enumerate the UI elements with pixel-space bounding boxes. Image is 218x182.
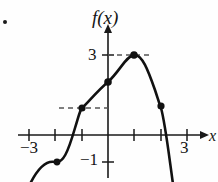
x-axis-label: x — [209, 128, 216, 144]
y-tick-label--1: −1 — [80, 151, 98, 168]
point-2-1 — [157, 102, 164, 109]
point-left-endpoint — [54, 159, 61, 166]
function-curve — [30, 55, 173, 182]
point-0-2 — [104, 78, 112, 86]
y-tick-label-3: 3 — [88, 46, 97, 63]
x-tick-label-3: 3 — [180, 139, 189, 156]
curve-label: f(x) — [92, 8, 118, 27]
x-tick-label--3: −3 — [20, 139, 38, 156]
point-1-3 — [130, 51, 138, 59]
x-axis-arrowhead — [200, 131, 209, 139]
point-neg1-1 — [78, 104, 85, 111]
function-graph-figure: f(x) x −3 3 3 −1 — [0, 0, 218, 182]
